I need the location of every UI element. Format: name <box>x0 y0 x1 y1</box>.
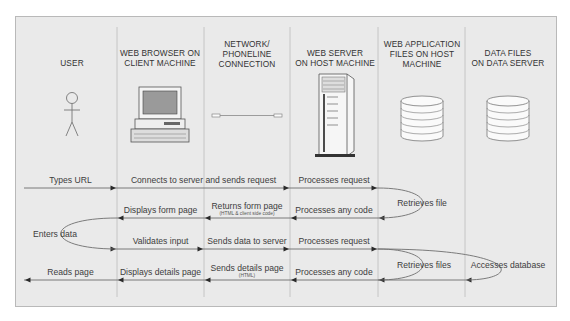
loop-label: Accesses database <box>471 260 546 270</box>
flow-label: Displays form page <box>124 205 198 215</box>
desktop-computer-icon <box>131 87 189 142</box>
column-header-datafiles: DATA FILES <box>485 48 532 58</box>
flow-label: Processes any code <box>295 205 373 215</box>
arrowhead <box>284 246 290 251</box>
flow-sublabel: (HTML) <box>239 273 256 278</box>
column-header-browser: WEB BROWSER ON <box>120 48 200 58</box>
flow-label: Types URL <box>49 175 92 185</box>
network-cable-icon <box>212 114 282 117</box>
arrowhead <box>284 185 290 190</box>
column-header-network: PHONELINE <box>223 49 272 59</box>
loop-label: Retrieves file <box>397 198 447 208</box>
flow-label: Processes any code <box>295 267 373 277</box>
flow-label: Reads page <box>47 267 94 277</box>
column-header-webserver: ON HOST MACHINE <box>295 58 375 68</box>
loop-label: Retrieves files <box>397 260 451 270</box>
arrowhead <box>111 185 117 190</box>
column-header-network: CONNECTION <box>219 59 276 69</box>
flow-labels: Types URLConnects to server and sends re… <box>33 175 545 278</box>
column-header-network: NETWORK/ <box>224 39 270 49</box>
column-header-user: USER <box>60 58 83 68</box>
column-header-webserver: WEB SERVER <box>307 48 363 58</box>
flow-label: Processes request <box>298 175 370 185</box>
flow-label: Sends data to server <box>207 236 286 246</box>
column-header-appfiles: MACHINE <box>403 59 442 69</box>
loop-label: Enters data <box>33 229 77 239</box>
column-header-appfiles: FILES ON HOST <box>390 49 454 59</box>
arrowhead <box>372 246 378 251</box>
flow-label: Sends details page <box>210 263 283 273</box>
arrowhead <box>291 215 297 220</box>
flow-label: Returns form page <box>211 201 282 211</box>
server-tower-icon <box>315 74 355 157</box>
flow-label: Processes request <box>298 236 370 246</box>
arrowhead <box>205 215 211 220</box>
column-header-browser: CLIENT MACHINE <box>124 58 196 68</box>
arrowhead <box>118 215 124 220</box>
column-header-datafiles: ON DATA SERVER <box>472 58 545 68</box>
arrowhead <box>372 185 378 190</box>
column-headers: USERWEB BROWSER ONCLIENT MACHINENETWORK/… <box>60 39 544 69</box>
arrowhead <box>25 277 31 282</box>
arrowhead <box>198 246 204 251</box>
flow-label: Validates input <box>133 236 189 246</box>
flow-label: Displays details page <box>120 267 201 277</box>
flow-sublabel: (HTML & client side code) <box>219 211 274 216</box>
stick-figure-icon <box>64 93 80 137</box>
column-header-appfiles: WEB APPLICATION <box>384 39 461 49</box>
flow-label: Connects to server and sends request <box>131 175 277 185</box>
database-icon <box>401 96 443 141</box>
arrowhead <box>291 277 297 282</box>
request-flow-diagram: USERWEB BROWSER ONCLIENT MACHINENETWORK/… <box>0 0 570 321</box>
arrowhead <box>118 277 124 282</box>
arrowhead <box>205 277 211 282</box>
database-icon <box>487 96 529 141</box>
